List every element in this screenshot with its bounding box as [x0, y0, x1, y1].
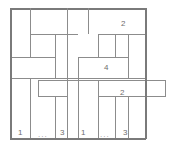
grid-line-h-row1-left — [30, 34, 78, 35]
grid-line-v-bot-h — [128, 96, 129, 138]
grid-line-v-top-b — [67, 8, 68, 78]
grid-line-v-bot-a — [30, 78, 31, 138]
label-bottom-1-left: 1 — [18, 129, 22, 137]
grid-line-v-border-left — [10, 8, 12, 139]
grid-line-h-band-left-bot — [38, 96, 68, 97]
grid-line-v-bot-g — [115, 96, 116, 138]
grid-line-v-mid-d — [115, 34, 116, 57]
grid-line-h-row2-right — [78, 57, 128, 58]
brick-tiling-diagram: 2421313...... — [0, 0, 171, 148]
grid-line-v-bot-c — [55, 96, 56, 138]
grid-line-v-mid-c — [98, 34, 99, 57]
label-top-right-2: 2 — [121, 20, 125, 28]
grid-line-v-mid-f — [78, 57, 79, 78]
grid-line-h-row2-left — [10, 57, 55, 58]
grid-line-h-border-bottom — [10, 138, 146, 140]
grid-line-v-mid-e — [128, 34, 129, 78]
grid-line-v-bot-d — [67, 78, 68, 138]
label-bottom-3-left: 3 — [60, 129, 64, 137]
ellipsis-right: ... — [100, 131, 110, 139]
label-middle-4: 4 — [104, 64, 108, 72]
grid-line-v-bot-f — [98, 80, 99, 138]
grid-line-v-border-right — [145, 8, 147, 139]
grid-line-v-bot-e — [78, 78, 79, 138]
grid-line-v-mid-a — [30, 34, 31, 57]
grid-line-v-bot-b — [38, 80, 39, 96]
label-bottom-1-mid: 1 — [81, 129, 85, 137]
grid-line-v-mid-b — [55, 34, 56, 78]
grid-line-h-row1-right — [98, 34, 146, 35]
ellipsis-left: ... — [38, 131, 48, 139]
grid-line-v-band-right — [165, 80, 166, 96]
label-right-band-2: 2 — [120, 89, 124, 97]
grid-line-v-top-a — [30, 8, 31, 34]
grid-line-h-band-right-bot — [98, 96, 166, 97]
grid-line-v-top-c — [88, 8, 89, 34]
label-bottom-3-right: 3 — [123, 129, 127, 137]
